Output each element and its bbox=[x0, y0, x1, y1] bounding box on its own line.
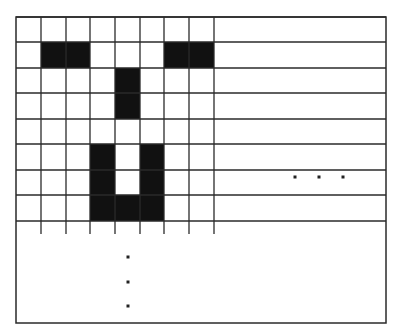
filled-cells bbox=[41, 42, 214, 221]
filled-cell bbox=[164, 42, 189, 68]
ellipsis-dot bbox=[127, 305, 130, 308]
filled-cell bbox=[115, 93, 140, 119]
ellipsis-dot bbox=[127, 281, 130, 284]
vertical-ellipsis bbox=[127, 256, 130, 308]
filled-cell bbox=[140, 170, 164, 195]
filled-cell bbox=[41, 42, 66, 68]
filled-cell bbox=[90, 144, 115, 170]
filled-cell bbox=[140, 144, 164, 170]
filled-cell bbox=[90, 170, 115, 195]
pixel-grid-diagram bbox=[0, 0, 399, 336]
filled-cell bbox=[189, 42, 214, 68]
filled-cell bbox=[90, 195, 115, 221]
ellipsis-dot bbox=[294, 176, 297, 179]
filled-cell bbox=[115, 195, 140, 221]
filled-cell bbox=[66, 42, 90, 68]
ellipsis-dot bbox=[318, 176, 321, 179]
horizontal-ellipsis bbox=[294, 176, 345, 179]
filled-cell bbox=[140, 195, 164, 221]
ellipsis-dot bbox=[127, 256, 130, 259]
ellipsis-dot bbox=[342, 176, 345, 179]
filled-cell bbox=[115, 68, 140, 93]
